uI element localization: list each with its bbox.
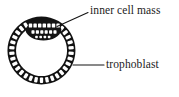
inner-cell-mass-cell <box>44 36 47 39</box>
inner-cell-mass-cell <box>48 36 51 39</box>
inner-cell-mass-cell <box>49 30 52 34</box>
trophoblast-cell <box>9 51 15 55</box>
label-inner-cell-mass: inner cell mass <box>90 5 160 17</box>
trophoblast-cell <box>40 78 43 83</box>
inner-cell-mass-cell <box>33 23 36 27</box>
inner-cell-mass-cell <box>52 23 55 27</box>
blastocyst-figure: inner cell mass trophoblast <box>0 0 179 97</box>
inner-cell-mass-cell <box>35 36 38 39</box>
inner-cell-mass-cell <box>43 23 46 27</box>
inner-cell-mass-cell <box>29 23 32 27</box>
inner-cell-mass-cell <box>53 30 56 34</box>
inner-cell-mass-cell <box>31 30 34 34</box>
trophoblast-cell <box>68 46 74 50</box>
inner-cell-mass-cell <box>38 23 41 27</box>
inner-cell-mass-cell <box>40 30 43 34</box>
inner-cell-mass-cell <box>45 30 48 34</box>
label-trophoblast: trophoblast <box>106 59 159 71</box>
inner-cell-mass-cell <box>39 36 42 39</box>
inner-cell-mass-cell <box>36 30 39 34</box>
inner-cell-mass-cell <box>47 23 50 27</box>
trophoblast-cell <box>9 46 15 50</box>
trophoblast-cell <box>68 51 74 55</box>
